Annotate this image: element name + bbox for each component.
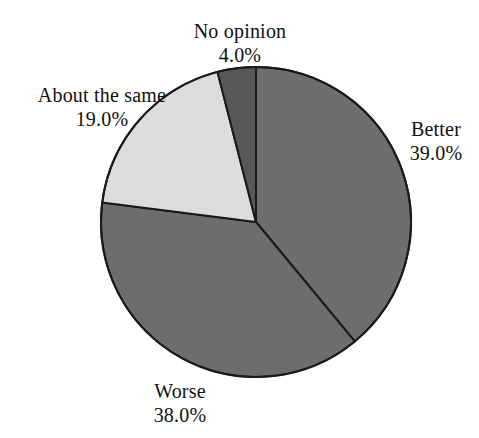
slice-label-better: Better 39.0% <box>393 118 479 165</box>
slice-label-about-the-same-name: About the same <box>14 84 190 108</box>
slice-label-no-opinion-value: 4.0% <box>167 44 313 68</box>
slice-label-better-value: 39.0% <box>393 142 479 166</box>
pie-chart-figure: No opinion 4.0% About the same 19.0% Bet… <box>0 0 479 438</box>
slice-label-about-the-same: About the same 19.0% <box>14 84 190 131</box>
slice-label-about-the-same-value: 19.0% <box>14 108 190 132</box>
slice-label-worse: Worse 38.0% <box>125 380 235 427</box>
slice-label-worse-name: Worse <box>125 380 235 404</box>
slice-label-worse-value: 38.0% <box>125 404 235 428</box>
slice-label-better-name: Better <box>393 118 479 142</box>
slice-label-no-opinion: No opinion 4.0% <box>167 20 313 67</box>
slice-label-no-opinion-name: No opinion <box>167 20 313 44</box>
